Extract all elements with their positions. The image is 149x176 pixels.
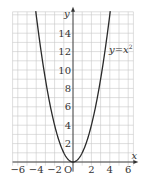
equation-label: y=x2 <box>108 43 133 55</box>
y-axis-arrow-icon <box>71 7 75 12</box>
y-tick-label: 14 <box>58 28 71 39</box>
y-tick-label: 10 <box>58 65 71 76</box>
y-tick-label: 8 <box>65 83 71 94</box>
x-tick-label: −2 <box>47 164 62 175</box>
x-tick-label: −4 <box>29 164 44 175</box>
y-tick-label: 2 <box>65 138 71 149</box>
y-tick-label: 4 <box>65 120 71 131</box>
axes <box>13 7 139 172</box>
y-tick-label: 12 <box>58 46 71 57</box>
origin-label: O <box>64 164 72 175</box>
x-tick-label: 6 <box>125 164 131 175</box>
x-tick-label: 4 <box>107 164 113 175</box>
y-axis-label: y <box>63 8 70 19</box>
x-tick-label: 2 <box>88 164 94 175</box>
parabola-chart: −6−4−2246 2468101214 x y O y=x2 <box>0 0 149 176</box>
x-axis-label: x <box>131 150 137 161</box>
y-tick-label: 6 <box>65 101 71 112</box>
x-tick-label: −6 <box>10 164 25 175</box>
